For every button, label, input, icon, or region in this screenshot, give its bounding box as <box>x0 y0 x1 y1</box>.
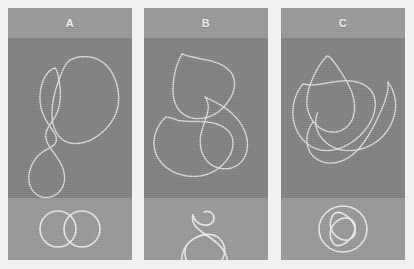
polymer-conformation-c <box>281 38 405 198</box>
knot-diagram-c <box>281 198 405 260</box>
conf-a-loop-2 <box>29 68 65 198</box>
polymer-conformation-b <box>144 38 268 198</box>
panel-b-label: B <box>144 8 268 38</box>
knot-diagram-a <box>8 198 132 260</box>
conf-c-loop-2 <box>293 81 375 151</box>
figure-container: A B C <box>0 0 414 269</box>
conf-a-loop-1 <box>52 57 119 144</box>
conf-b-loop-2 <box>154 117 233 176</box>
panel-c-label: C <box>281 8 405 38</box>
conf-b-loop-3 <box>200 97 247 169</box>
knot-b-left-lobe <box>182 234 225 260</box>
knot-a-circle-left <box>40 211 76 247</box>
knot-c-upper-lobe <box>330 212 355 240</box>
polymer-conformation-a <box>8 38 132 198</box>
panel-b: B <box>144 8 268 260</box>
panel-a: A <box>8 8 132 260</box>
conf-b-loop-1 <box>173 54 235 119</box>
knot-a-circle-right <box>64 211 100 247</box>
knot-b-top-loop <box>193 211 214 225</box>
conf-c-loop-1 <box>307 56 355 132</box>
panel-c: C <box>281 8 405 260</box>
knot-b-right-lobe <box>182 215 227 260</box>
knot-c-lower-lobe <box>330 218 355 246</box>
panel-a-label: A <box>8 8 132 38</box>
knot-diagram-b <box>144 198 268 260</box>
